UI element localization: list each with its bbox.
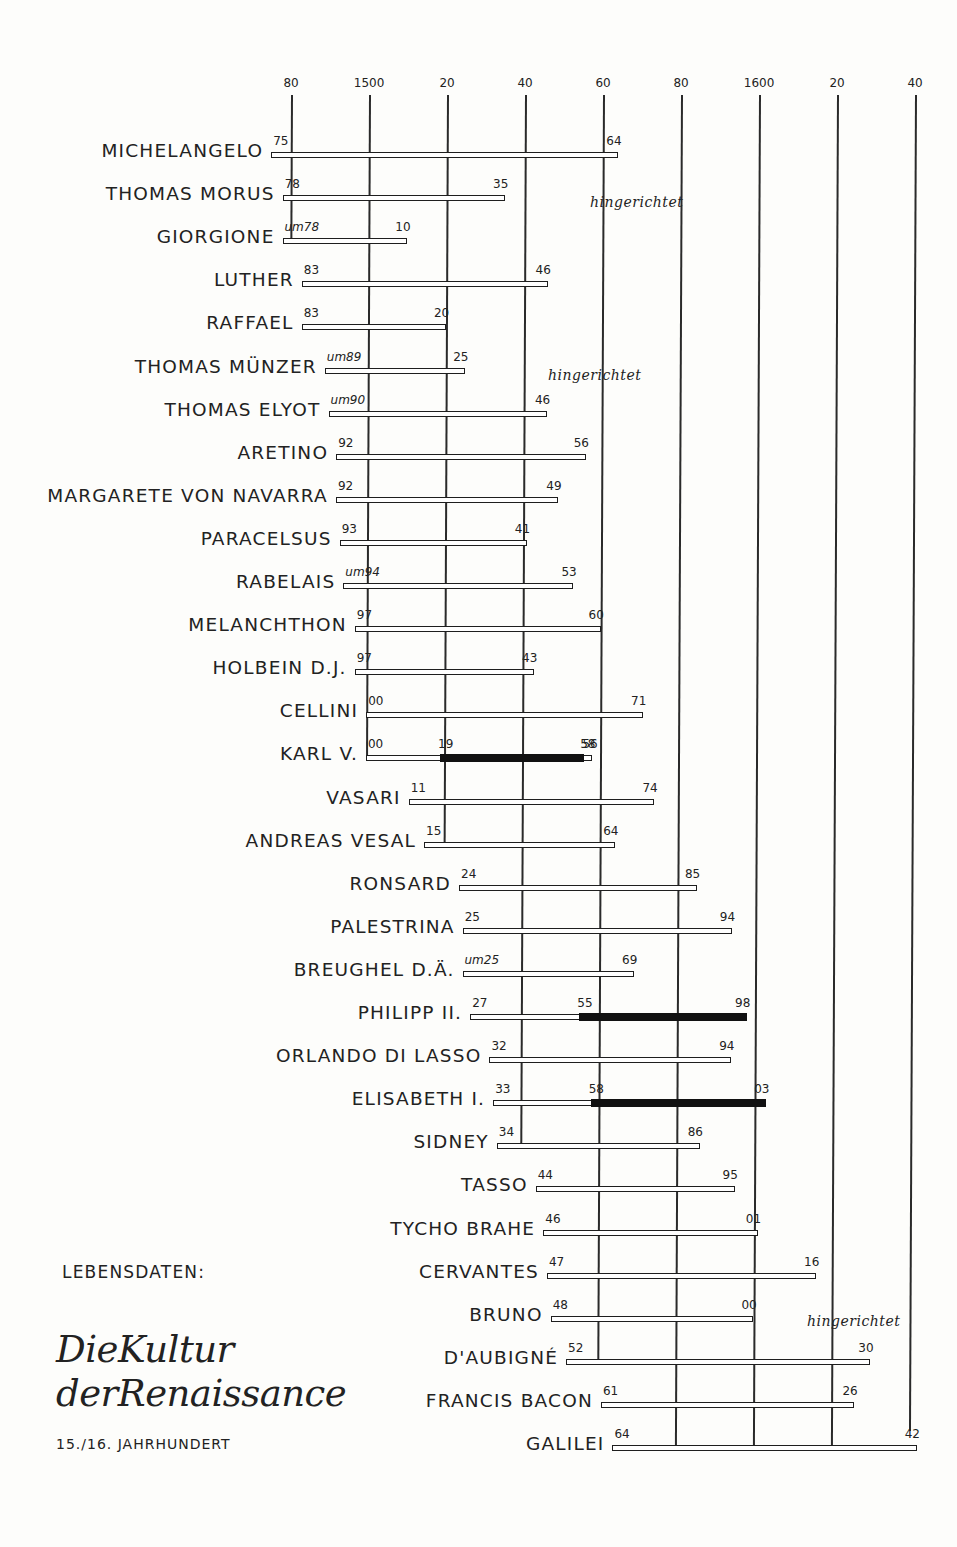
birth-year-label: 44: [538, 1168, 553, 1182]
axis-tick-label: 40: [907, 76, 922, 90]
lifespan-bar: [463, 928, 732, 934]
person-name: ORLANDO DI LASSO: [276, 1045, 482, 1066]
birth-year-label: um90: [331, 393, 366, 407]
reign-bar: [440, 754, 584, 762]
person-name: CELLINI: [280, 700, 358, 721]
birth-year-label: um25: [465, 953, 500, 967]
death-year-label: 64: [606, 134, 621, 148]
executed-note: hingerichtet: [807, 1313, 900, 1329]
executed-note: hingerichtet: [548, 367, 641, 383]
death-year-label: 94: [720, 910, 735, 924]
birth-year-label: 46: [545, 1212, 560, 1226]
death-year-label: 03: [754, 1082, 769, 1096]
death-year-label: 71: [631, 694, 646, 708]
gridline: [831, 95, 839, 1448]
death-year-label: 16: [804, 1255, 819, 1269]
death-year-label: 53: [561, 565, 576, 579]
chart-title-line2: derRenaissance: [56, 1372, 346, 1415]
reign-year-label: 58: [589, 1082, 604, 1096]
birth-year-label: 83: [304, 306, 319, 320]
birth-year-label: 47: [549, 1255, 564, 1269]
death-year-label: 26: [842, 1384, 857, 1398]
lifespan-bar: [459, 885, 697, 891]
death-year-label: 35: [493, 177, 508, 191]
lifespan-bar: [409, 799, 655, 805]
birth-year-label: 24: [461, 867, 476, 881]
birth-year-label: 61: [603, 1384, 618, 1398]
lifespan-bar: [271, 152, 618, 158]
person-name: KARL V.: [280, 743, 358, 764]
person-name: TYCHO BRAHE: [390, 1218, 535, 1239]
person-name: MARGARETE VON NAVARRA: [47, 485, 328, 506]
death-year-label: 86: [688, 1125, 703, 1139]
axis-tick-label: 20: [829, 76, 844, 90]
birth-year-label: 97: [357, 608, 372, 622]
birth-year-label: 34: [499, 1125, 514, 1139]
reign-bar: [591, 1099, 767, 1107]
axis-tick-label: 20: [439, 76, 454, 90]
birth-year-label: um94: [345, 565, 380, 579]
axis-tick-label: 40: [517, 76, 532, 90]
lifespan-bar: [336, 497, 558, 503]
death-year-label: 46: [536, 263, 551, 277]
lifespan-bar: [302, 324, 446, 330]
lifespan-bar: [340, 540, 527, 546]
death-year-label: 46: [535, 393, 550, 407]
gridline: [675, 95, 683, 1448]
person-name: TASSO: [461, 1174, 528, 1195]
death-year-label: 25: [453, 350, 468, 364]
death-year-label: 94: [719, 1039, 734, 1053]
death-year-label: 10: [395, 220, 410, 234]
axis-tick-label: 1500: [354, 76, 385, 90]
person-name: RABELAIS: [236, 571, 335, 592]
birth-year-label: 64: [614, 1427, 629, 1441]
gridline: [909, 95, 917, 1431]
death-year-label: 20: [434, 306, 449, 320]
lifespan-bar: [536, 1186, 735, 1192]
person-name: BREUGHEL D.Ä.: [294, 959, 455, 980]
lifespan-bar: [547, 1273, 816, 1279]
person-name: ELISABETH I.: [352, 1088, 485, 1109]
birth-year-label: um89: [327, 350, 362, 364]
birth-year-label: 11: [411, 781, 426, 795]
person-name: LUTHER: [214, 269, 294, 290]
lifespan-bar: [601, 1402, 855, 1408]
lifespan-bar: [336, 454, 586, 460]
person-name: ANDREAS VESAL: [246, 830, 417, 851]
lifespan-bar: [424, 842, 615, 848]
axis-tick-label: 80: [673, 76, 688, 90]
person-name: D'AUBIGNÉ: [444, 1347, 558, 1368]
lifespan-bar: [612, 1445, 916, 1451]
death-year-label: 43: [522, 651, 537, 665]
death-year-label: 56: [574, 436, 589, 450]
death-year-label: 58: [580, 737, 595, 751]
birth-year-label: 32: [491, 1039, 506, 1053]
death-year-label: 41: [515, 522, 530, 536]
person-name: FRANCIS BACON: [426, 1390, 593, 1411]
lifespan-bar: [566, 1359, 870, 1365]
death-year-label: 85: [685, 867, 700, 881]
birth-year-label: 15: [426, 824, 441, 838]
death-year-label: 30: [858, 1341, 873, 1355]
lifespan-bar: [489, 1057, 731, 1063]
lifespan-bar: [325, 368, 465, 374]
birth-year-label: 52: [568, 1341, 583, 1355]
death-year-label: 95: [723, 1168, 738, 1182]
person-name: ARETINO: [237, 442, 328, 463]
death-year-label: 00: [741, 1298, 756, 1312]
person-name: PHILIPP II.: [358, 1002, 462, 1023]
gridline: [444, 95, 449, 845]
lifespan-bar: [283, 238, 408, 244]
birth-year-label: 00: [368, 694, 383, 708]
person-name: GIORGIONE: [157, 226, 275, 247]
person-name: PALESTRINA: [330, 916, 454, 937]
axis-tick-label: 80: [283, 76, 298, 90]
timeline-chart: 8015002040608016002040 MICHELANGELO7564T…: [0, 0, 957, 1547]
birth-year-label: 78: [285, 177, 300, 191]
lifespan-bar: [343, 583, 573, 589]
executed-note: hingerichtet: [590, 194, 683, 210]
person-name: SIDNEY: [413, 1131, 488, 1152]
lifespan-bar: [543, 1230, 758, 1236]
death-year-label: 01: [746, 1212, 761, 1226]
gridline: [520, 95, 526, 1146]
